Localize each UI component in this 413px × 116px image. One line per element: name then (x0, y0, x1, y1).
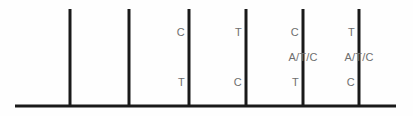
sequence-diagram-figure: CTTCCA/T/CTTA/T/CC (0, 0, 413, 116)
tick-marks-group (70, 9, 359, 106)
diagram-canvas (0, 0, 413, 116)
